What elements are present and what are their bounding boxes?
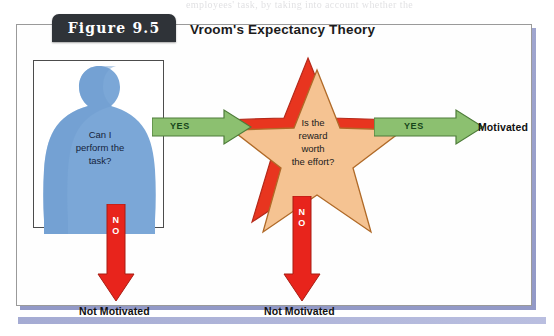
- no-arrow-2-label: NO: [295, 207, 309, 228]
- yes-arrow-2: [374, 108, 484, 146]
- expectancy-question-text: Can I perform the task?: [55, 128, 145, 167]
- yes-arrow-1-label: YES: [170, 121, 190, 131]
- expectancy-question-line-2: perform the: [76, 142, 125, 153]
- figure-number-badge: Figure 9.5: [52, 14, 176, 42]
- outcome-not-motivated-1-label: Not Motivated: [79, 305, 150, 317]
- yes-arrow-2-label: YES: [404, 121, 424, 131]
- instrumentality-question-line-2: reward: [298, 130, 327, 141]
- instrumentality-question-line-1: Is the: [301, 117, 324, 128]
- figure-title: Vroom's Expectancy Theory: [190, 22, 375, 37]
- instrumentality-question-line-3: worth: [301, 143, 324, 154]
- outcome-motivated-label: Motivated: [478, 121, 528, 133]
- page-cut-off-body-text: employees' task, by taking into account …: [186, 0, 546, 11]
- expectancy-question-line-3: task?: [89, 155, 112, 166]
- yes-arrow-1: [152, 108, 252, 146]
- page-bottom-rule: [18, 317, 546, 324]
- instrumentality-question-line-4: the effort?: [292, 156, 335, 167]
- outcome-not-motivated-2-label: Not Motivated: [264, 305, 335, 317]
- no-arrow-1-label: NO: [109, 215, 123, 236]
- expectancy-question-line-1: Can I: [89, 129, 112, 140]
- instrumentality-question-text: Is the reward worth the effort?: [258, 116, 368, 168]
